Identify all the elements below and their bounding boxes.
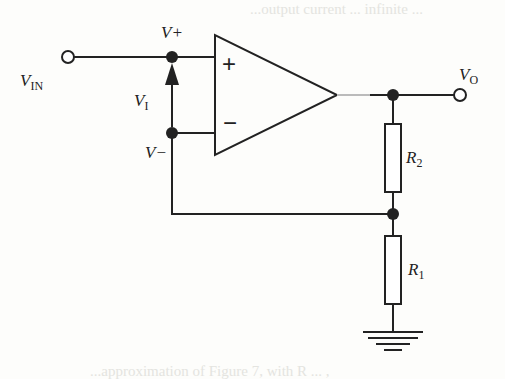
ghost-text-top: ...output current ... infinite ... [250,1,423,17]
label-vplus: V+ [161,23,183,42]
label-vminus: V− [145,143,167,162]
label-r2: R2 [405,148,422,170]
ground-icon [363,332,423,350]
label-vi: VI [134,91,148,113]
svg-text:R2: R2 [405,148,422,170]
svg-text:VO: VO [459,65,478,87]
opamp-plus-sign: + [222,50,236,77]
vplus-node [166,51,178,63]
svg-text:VI: VI [134,91,148,113]
r2-resistor [385,124,401,192]
label-vin: VIN [20,71,43,93]
vin-terminal [62,51,74,63]
svg-text:VIN: VIN [20,71,43,93]
vi-arrow-icon [165,63,179,127]
feedback-node [387,208,399,220]
feedback-wire [172,133,393,214]
r1-resistor [385,236,401,304]
svg-text:R1: R1 [407,260,424,282]
opamp-minus-sign: − [223,109,237,136]
ghost-text-bottom: ...approximation of Figure 7, with R ...… [90,363,330,379]
circuit-diagram: ...output current ... infinite ... ...ap… [0,0,505,379]
vo-terminal [454,89,466,101]
label-r1: R1 [407,260,424,282]
label-vo: VO [459,65,478,87]
